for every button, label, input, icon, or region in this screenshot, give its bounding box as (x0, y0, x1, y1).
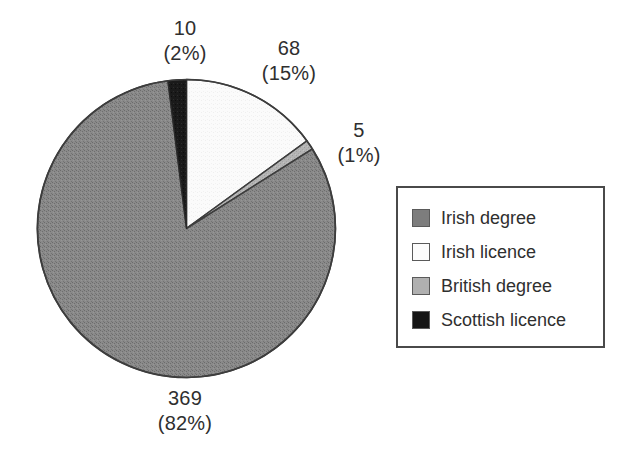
legend-box: Irish degree Irish licence British degre… (396, 186, 605, 348)
legend-item-label: Irish degree (441, 208, 536, 228)
pie-chart-graphic (36, 78, 337, 379)
legend-item-scottish-licence: Scottish licence (412, 303, 595, 337)
legend-item-label: Scottish licence (441, 310, 566, 330)
slice-label-percent: (82%) (120, 411, 250, 436)
slice-label-scottish-licence: 10 (2%) (137, 16, 233, 66)
slice-label-value: 5 (311, 118, 407, 143)
legend-list: Irish degree Irish licence British degre… (412, 201, 595, 337)
slice-label-value: 369 (120, 386, 250, 411)
legend-item-label: Irish licence (441, 242, 536, 262)
slice-label-irish-licence: 68 (15%) (234, 36, 344, 86)
pie-chart-figure: 10 (2%) 68 (15%) 5 (1%) 369 (82%) Irish … (0, 0, 635, 452)
slice-label-value: 68 (234, 36, 344, 61)
slice-label-british-degree: 5 (1%) (311, 118, 407, 168)
legend-item-label: British degree (441, 276, 552, 296)
legend-swatch-icon (412, 209, 430, 227)
legend-swatch-icon (412, 243, 430, 261)
slice-label-value: 10 (137, 16, 233, 41)
legend-item-irish-degree: Irish degree (412, 201, 595, 235)
legend-swatch-icon (412, 277, 430, 295)
slice-label-percent: (1%) (311, 143, 407, 168)
legend-item-irish-licence: Irish licence (412, 235, 595, 269)
slice-label-percent: (15%) (234, 61, 344, 86)
slice-label-irish-degree: 369 (82%) (120, 386, 250, 436)
slice-label-percent: (2%) (137, 41, 233, 66)
legend-swatch-icon (412, 311, 430, 329)
pie-svg (36, 78, 337, 379)
legend-item-british-degree: British degree (412, 269, 595, 303)
